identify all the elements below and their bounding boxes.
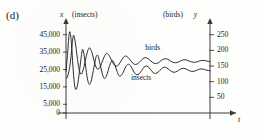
right-axis-variable: y — [194, 10, 197, 19]
left-axis-tick-label: 5,000 — [18, 100, 60, 108]
left-axis-tick-label: 35,000 — [18, 48, 60, 56]
t-axis-arrowhead — [230, 110, 236, 115]
right-axis-tick-label: 150 — [217, 62, 247, 70]
left-axis-tick-label: 15,000 — [18, 83, 60, 91]
right-axis-tick-label: 250 — [217, 31, 247, 39]
left-axis-variable: x — [60, 10, 63, 19]
series-label-insects: insects — [131, 74, 151, 82]
left-axis-units: (insects) — [72, 10, 97, 19]
panel-label: (d) — [6, 10, 19, 21]
right-axis-tick-label: 100 — [217, 78, 247, 86]
left-axis-tick-label: 0 — [18, 109, 60, 117]
left-axis-tick-label: 25,000 — [18, 66, 60, 74]
right-axis-title: (birds) y — [163, 11, 197, 19]
right-axis-tick-label: 50 — [217, 93, 247, 101]
right-axis-units: (birds) — [163, 10, 183, 19]
t-axis-label: t — [238, 116, 240, 124]
series-label-birds: birds — [145, 44, 160, 52]
right-y-axis-arrowhead — [207, 18, 212, 24]
figure-panel: (d) x (insects) (birds) y t 05,00015,000… — [0, 0, 262, 138]
right-axis-tick-label: 200 — [217, 46, 247, 54]
left-axis-tick-label: 45,000 — [18, 31, 60, 39]
left-axis-title: x (insects) — [60, 11, 98, 19]
axes-group — [58, 18, 236, 119]
